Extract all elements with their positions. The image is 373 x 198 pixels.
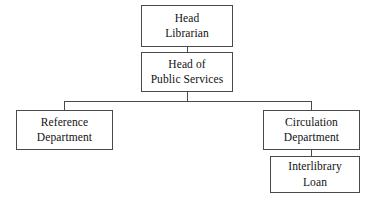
node-interlibrary-loan-line-1: Interlibrary	[288, 159, 342, 174]
node-circulation-department-line-1: Circulation	[285, 115, 338, 130]
node-head-public-services-line-2: Public Services	[151, 72, 224, 87]
node-interlibrary-loan[interactable]: Interlibrary Loan	[270, 156, 360, 193]
node-head-librarian[interactable]: Head Librarian	[141, 5, 233, 47]
node-head-librarian-line-2: Librarian	[165, 26, 209, 41]
node-reference-department-line-1: Reference	[41, 115, 89, 130]
node-circulation-department-line-2: Department	[284, 130, 339, 145]
connector-bus-to-circulation-department	[311, 101, 312, 110]
connector-horizontal-bus	[64, 101, 312, 102]
node-reference-department-line-2: Department	[37, 130, 92, 145]
node-head-public-services-line-1: Head of	[168, 57, 205, 72]
node-reference-department[interactable]: Reference Department	[16, 110, 113, 150]
node-head-public-services[interactable]: Head of Public Services	[141, 52, 233, 92]
org-chart-canvas: Head Librarian Head of Public Services R…	[0, 0, 373, 198]
node-head-librarian-line-1: Head	[175, 11, 200, 26]
node-circulation-department[interactable]: Circulation Department	[263, 110, 360, 150]
node-interlibrary-loan-line-2: Loan	[303, 175, 327, 190]
connector-bus-to-reference-department	[64, 101, 65, 110]
